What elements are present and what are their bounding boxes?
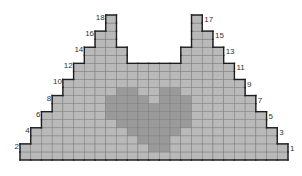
motif-cell xyxy=(159,144,170,152)
chart-cell xyxy=(181,128,192,136)
chart-cell xyxy=(116,47,127,55)
motif-cell xyxy=(116,112,127,120)
chart-cell xyxy=(106,79,117,87)
chart-cell xyxy=(106,136,117,144)
chart-cell xyxy=(213,96,224,104)
chart-cell xyxy=(267,144,278,152)
row-label: 17 xyxy=(204,16,213,24)
chart-cell xyxy=(181,63,192,71)
chart-cell xyxy=(192,128,203,136)
row-label: 6 xyxy=(36,111,40,119)
chart-cell xyxy=(149,63,160,71)
motif-cell xyxy=(127,104,138,112)
chart-cell xyxy=(63,112,74,120)
chart-cell xyxy=(138,144,149,152)
chart-cell xyxy=(192,31,203,39)
chart-cell xyxy=(95,112,106,120)
chart-cell xyxy=(277,144,288,152)
chart-cell xyxy=(138,79,149,87)
chart-cell xyxy=(63,144,74,152)
chart-cell xyxy=(170,71,181,79)
chart-cell xyxy=(52,120,63,128)
chart-cell xyxy=(192,71,203,79)
chart-cell xyxy=(95,144,106,152)
chart-cell xyxy=(224,63,235,71)
chart-cell xyxy=(170,144,181,152)
chart-cell xyxy=(63,152,74,160)
motif-cell xyxy=(149,144,160,152)
chart-cell xyxy=(234,96,245,104)
chart-cell xyxy=(181,47,192,55)
chart-cell xyxy=(213,63,224,71)
chart-cell xyxy=(234,104,245,112)
chart-cell xyxy=(256,152,267,160)
chart-cell xyxy=(52,136,63,144)
chart-cell xyxy=(116,144,127,152)
chart-cell xyxy=(74,152,85,160)
chart-cell xyxy=(63,104,74,112)
chart-cell xyxy=(245,136,256,144)
chart-cell xyxy=(202,144,213,152)
row-label: 14 xyxy=(74,46,83,54)
chart-cell xyxy=(41,128,52,136)
chart-cell xyxy=(41,120,52,128)
motif-cell xyxy=(159,128,170,136)
chart-cell xyxy=(95,136,106,144)
chart-cell xyxy=(159,79,170,87)
chart-cell xyxy=(181,55,192,63)
motif-cell xyxy=(170,128,181,136)
chart-cell xyxy=(202,31,213,39)
chart-cell xyxy=(74,96,85,104)
chart-cell xyxy=(224,96,235,104)
chart-cell xyxy=(106,120,117,128)
chart-cell xyxy=(170,63,181,71)
chart-cell xyxy=(213,88,224,96)
row-label: 15 xyxy=(215,32,224,40)
chart-cell xyxy=(170,152,181,160)
chart-cell xyxy=(234,144,245,152)
motif-cell xyxy=(159,104,170,112)
motif-cell xyxy=(181,112,192,120)
chart-cell xyxy=(116,128,127,136)
motif-cell xyxy=(138,128,149,136)
motif-cell xyxy=(170,104,181,112)
row-label: 1 xyxy=(290,145,294,153)
chart-cell xyxy=(20,152,31,160)
chart-cell xyxy=(84,104,95,112)
chart-cell xyxy=(245,144,256,152)
chart-cell xyxy=(224,79,235,87)
chart-cell xyxy=(224,104,235,112)
chart-cell xyxy=(192,88,203,96)
chart-cell xyxy=(52,104,63,112)
motif-cell xyxy=(181,104,192,112)
chart-cell xyxy=(95,63,106,71)
motif-cell xyxy=(181,96,192,104)
chart-cell xyxy=(256,112,267,120)
knitting-chart xyxy=(0,0,302,176)
motif-cell xyxy=(116,104,127,112)
motif-cell xyxy=(170,96,181,104)
chart-cell xyxy=(106,128,117,136)
chart-cell xyxy=(224,112,235,120)
chart-cell xyxy=(95,79,106,87)
chart-cell xyxy=(63,79,74,87)
chart-cell xyxy=(192,144,203,152)
chart-cell xyxy=(202,120,213,128)
chart-cell xyxy=(138,152,149,160)
chart-cell xyxy=(106,55,117,63)
chart-cell xyxy=(224,128,235,136)
chart-cell xyxy=(224,136,235,144)
chart-cell xyxy=(192,39,203,47)
chart-cell xyxy=(192,152,203,160)
chart-cell xyxy=(41,112,52,120)
chart-cell xyxy=(95,152,106,160)
motif-cell xyxy=(106,96,117,104)
chart-cell xyxy=(31,152,42,160)
chart-cell xyxy=(159,63,170,71)
motif-cell xyxy=(106,104,117,112)
chart-cell xyxy=(170,136,181,144)
row-label: 4 xyxy=(25,127,29,135)
row-label: 16 xyxy=(85,30,94,38)
chart-cell xyxy=(202,88,213,96)
chart-cell xyxy=(202,79,213,87)
